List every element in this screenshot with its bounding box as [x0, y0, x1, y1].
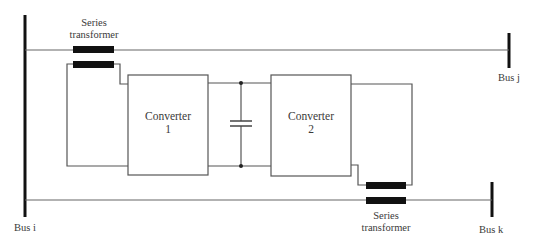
upper-transformer-secondary [73, 61, 114, 68]
junction-dot-bottom [239, 164, 243, 168]
converter-1-label: Converter 1 [128, 110, 208, 136]
wire-lower-tx-left [351, 165, 366, 185]
bus-j-label: Bus j [498, 72, 520, 84]
wire-lower-tx-right [351, 84, 412, 185]
lower-transformer-label: Series transformer [354, 210, 418, 234]
bus-k-label: Bus k [479, 224, 503, 236]
bus-i-label: Bus i [14, 222, 36, 234]
lower-transformer-primary [366, 197, 406, 204]
junction-dot-top [239, 81, 243, 85]
lower-transformer-secondary [366, 182, 406, 189]
upper-transformer-primary [73, 46, 114, 53]
wire-upper-tx-right [114, 64, 128, 84]
upper-transformer-label: Series transformer [62, 17, 126, 41]
wire-upper-tx-left [67, 64, 128, 166]
converter-2-label: Converter 2 [271, 110, 351, 136]
